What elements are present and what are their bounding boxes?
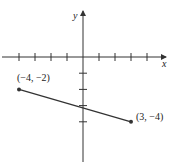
y-axis-label: y — [72, 10, 78, 21]
coordinate-plane: x y (−4, −2)(3, −4) — [0, 0, 177, 165]
point-label: (3, −4) — [136, 111, 163, 123]
line-segment — [19, 89, 131, 121]
plot-svg: x y (−4, −2)(3, −4) — [0, 0, 177, 165]
x-axis-label: x — [161, 58, 167, 69]
data-point — [129, 120, 133, 124]
point-label: (−4, −2) — [17, 72, 50, 84]
data-point — [17, 87, 21, 91]
